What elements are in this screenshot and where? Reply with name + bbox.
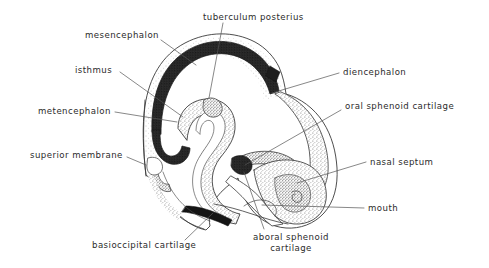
leader-superior-membrane [127, 157, 146, 165]
label-metencephalon: metencephalon [38, 106, 111, 117]
label-superior-membrane: superior membrane [30, 150, 123, 161]
figure-drawing [0, 0, 489, 268]
label-basioccipital-cartilage: basioccipital cartilage [92, 240, 196, 251]
label-nasal-septum: nasal septum [370, 157, 433, 168]
label-mesencephalon: mesencephalon [85, 30, 159, 41]
label-mouth: mouth [368, 203, 398, 214]
anatomical-figure: mesencephalon tuberculum posterius isthm… [0, 0, 489, 268]
label-tuberculum-posterius: tuberculum posterius [203, 12, 304, 23]
label-diencephalon: diencephalon [343, 67, 406, 78]
label-aboral-sphenoid-cartilage: aboral sphenoid cartilage [243, 232, 339, 253]
label-oral-sphenoid-cartilage: oral sphenoid cartilage [345, 101, 454, 112]
label-isthmus: isthmus [75, 65, 112, 76]
